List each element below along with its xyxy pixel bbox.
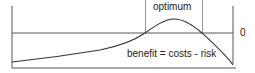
benefit-diagram — [0, 0, 255, 73]
zero-label: 0 — [240, 28, 246, 38]
optimum-label: optimum — [153, 2, 191, 12]
curve-label: benefit = costs - risk — [127, 49, 216, 59]
